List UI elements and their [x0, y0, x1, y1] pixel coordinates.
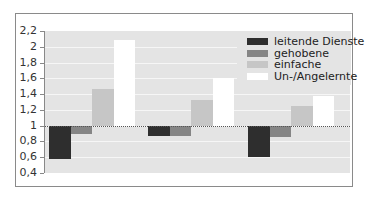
bar [148, 126, 170, 136]
y-tick-label: 1,8 [10, 57, 37, 69]
legend-label: Un-/Angelernte [274, 71, 357, 82]
y-tick [40, 94, 44, 95]
y-tick [40, 63, 44, 64]
y-tick-label: 1,6 [10, 72, 37, 84]
y-tick-label: 2,2 [10, 25, 37, 37]
baseline-reference-line [44, 126, 350, 127]
y-tick-label: 2 [10, 41, 37, 53]
y-axis-line [44, 31, 45, 173]
gridline [44, 94, 350, 95]
legend-item-leitende-dienste: leitende Dienste [247, 36, 364, 47]
y-tick [40, 141, 44, 142]
bar [213, 78, 235, 126]
bar [114, 40, 136, 126]
legend-swatch [247, 50, 268, 57]
legend-item-un-angelernte: Un-/Angelernte [247, 71, 357, 82]
legend-label: leitende Dienste [274, 36, 364, 47]
legend-item-einfache: einfache [247, 59, 321, 70]
gridline [44, 141, 350, 142]
bar [313, 96, 335, 126]
y-tick-label: 1 [10, 120, 37, 132]
y-tick-label: 1,2 [10, 104, 37, 116]
bar [49, 126, 71, 159]
legend-swatch [247, 61, 268, 68]
y-tick [40, 31, 44, 32]
y-tick-label: 0,8 [10, 135, 37, 147]
legend-swatch [247, 73, 268, 80]
y-tick [40, 78, 44, 79]
legend-swatch [247, 38, 268, 45]
bar [170, 126, 192, 136]
y-tick-label: 0,6 [10, 151, 37, 163]
gridline [44, 157, 350, 158]
bar [191, 100, 213, 125]
y-tick [40, 47, 44, 48]
legend-label: einfache [274, 59, 321, 70]
y-tick-label: 1,4 [10, 88, 37, 100]
y-tick [40, 157, 44, 158]
y-tick [40, 173, 44, 174]
bar [248, 126, 270, 158]
y-tick [40, 126, 44, 127]
legend: leitende Dienste gehobene einfache Un-/A… [237, 31, 351, 85]
bar [270, 126, 292, 138]
bar [291, 106, 313, 126]
bar [92, 89, 114, 125]
bar [71, 126, 93, 135]
y-tick [40, 110, 44, 111]
y-tick-label: 0,4 [10, 167, 37, 179]
